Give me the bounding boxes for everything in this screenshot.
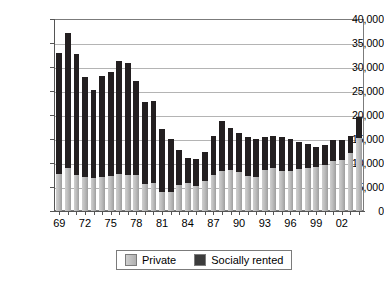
stacked-bar[interactable] [151, 101, 157, 211]
bar-column[interactable] [132, 20, 141, 211]
bar-column[interactable] [64, 20, 73, 211]
stacked-bar[interactable] [116, 61, 122, 211]
x-axis-tick [89, 211, 98, 216]
bar-column[interactable] [320, 20, 329, 211]
stacked-bar[interactable] [176, 150, 182, 211]
bar-column[interactable] [175, 20, 184, 211]
stacked-bar[interactable] [142, 102, 148, 211]
bar-column[interactable] [106, 20, 115, 211]
bar-segment-private [74, 175, 80, 211]
bar-column[interactable] [98, 20, 107, 211]
stacked-bar[interactable] [322, 145, 328, 211]
stacked-bar[interactable] [65, 33, 71, 211]
bar-segment-private [82, 177, 88, 211]
x-axis-tick [320, 211, 329, 216]
bar-column[interactable] [166, 20, 175, 211]
x-axis-tick [338, 211, 347, 216]
bar-column[interactable] [209, 20, 218, 211]
stacked-bar[interactable] [288, 139, 294, 211]
bar-segment-private [228, 170, 234, 211]
stacked-bar[interactable] [245, 137, 251, 211]
bar-column[interactable] [243, 20, 252, 211]
x-axis-label-cell [166, 217, 175, 233]
bar-segment-socially-rented [56, 53, 62, 174]
stacked-bar[interactable] [108, 72, 114, 211]
bar-column[interactable] [115, 20, 124, 211]
x-axis-label-cell [269, 217, 278, 233]
stacked-bar[interactable] [125, 63, 131, 211]
bar-column[interactable] [81, 20, 90, 211]
stacked-bar[interactable] [330, 140, 336, 211]
stacked-bar[interactable] [185, 158, 191, 211]
stacked-bar[interactable] [74, 54, 80, 211]
bar-segment-socially-rented [211, 136, 217, 176]
bar-column[interactable] [149, 20, 158, 211]
bar-column[interactable] [355, 20, 364, 211]
bar-column[interactable] [55, 20, 64, 211]
stacked-bar[interactable] [270, 136, 276, 211]
bar-column[interactable] [72, 20, 81, 211]
stacked-bar[interactable] [91, 90, 97, 211]
stacked-bar[interactable] [193, 159, 199, 211]
stacked-bar[interactable] [56, 53, 62, 211]
stacked-bar[interactable] [159, 129, 165, 211]
bar-column[interactable] [278, 20, 287, 211]
bar-column[interactable] [338, 20, 347, 211]
x-axis-tick [201, 211, 210, 216]
stacked-bar[interactable] [236, 133, 242, 211]
stacked-bar[interactable] [202, 152, 208, 211]
bar-column[interactable] [303, 20, 312, 211]
x-axis-tick [235, 211, 244, 216]
x-axis-label-cell [355, 217, 364, 233]
stacked-bar[interactable] [305, 144, 311, 211]
stacked-bar[interactable] [219, 121, 225, 211]
stacked-bar[interactable] [211, 136, 217, 211]
bar-column[interactable] [295, 20, 304, 211]
bar-segment-private [193, 186, 199, 211]
bar-column[interactable] [218, 20, 227, 211]
bar-column[interactable] [158, 20, 167, 211]
legend-label-private: Private [142, 254, 176, 266]
bar-column[interactable] [192, 20, 201, 211]
bar-segment-socially-rented [279, 137, 285, 171]
bar-series-container [55, 20, 363, 211]
x-axis-tick [226, 211, 235, 216]
x-axis-label-cell: 75 [106, 217, 115, 233]
stacked-bar[interactable] [313, 147, 319, 211]
bar-column[interactable] [252, 20, 261, 211]
bar-column[interactable] [141, 20, 150, 211]
bar-column[interactable] [89, 20, 98, 211]
bar-column[interactable] [183, 20, 192, 211]
legend-item-private[interactable]: Private [125, 254, 176, 266]
stacked-bar[interactable] [348, 136, 354, 211]
stacked-bar[interactable] [279, 137, 285, 211]
bar-segment-socially-rented [151, 101, 157, 184]
bar-segment-socially-rented [74, 54, 80, 174]
stacked-bar[interactable] [228, 128, 234, 211]
stacked-bar[interactable] [262, 137, 268, 211]
bar-column[interactable] [201, 20, 210, 211]
x-axis-label-cell: 81 [158, 217, 167, 233]
bar-column[interactable] [124, 20, 133, 211]
stacked-bar[interactable] [99, 76, 105, 211]
bar-column[interactable] [226, 20, 235, 211]
bar-column[interactable] [261, 20, 270, 211]
bar-segment-private [219, 171, 225, 211]
stacked-bar[interactable] [339, 140, 345, 211]
bar-segment-private [262, 170, 268, 211]
bar-column[interactable] [286, 20, 295, 211]
stacked-bar[interactable] [133, 81, 139, 211]
x-axis-label-cell [89, 217, 98, 233]
legend-item-socially-rented[interactable]: Socially rented [194, 254, 283, 266]
bar-column[interactable] [329, 20, 338, 211]
bar-column[interactable] [346, 20, 355, 211]
stacked-bar[interactable] [296, 142, 302, 211]
stacked-bar[interactable] [356, 117, 362, 211]
stacked-bar[interactable] [168, 139, 174, 211]
bar-column[interactable] [312, 20, 321, 211]
bar-column[interactable] [235, 20, 244, 211]
stacked-bar[interactable] [253, 139, 259, 211]
stacked-bar[interactable] [82, 77, 88, 211]
bar-segment-private [133, 175, 139, 211]
bar-column[interactable] [269, 20, 278, 211]
